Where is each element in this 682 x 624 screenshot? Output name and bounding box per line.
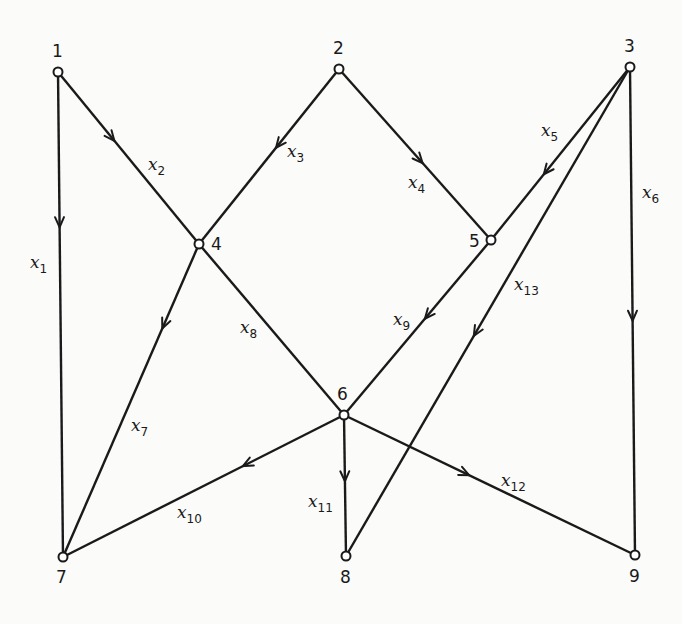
node-3 [626, 63, 635, 72]
edge-subscript: 10 [187, 512, 202, 526]
edge-label-x9: x9 [393, 309, 410, 333]
edge-x10 [63, 415, 344, 557]
edge-label-x10: x10 [177, 502, 202, 526]
edge-variable: x [408, 172, 418, 192]
edges-layer [58, 67, 635, 557]
edge-variable: x [393, 309, 403, 329]
edge-variable: x [308, 491, 318, 511]
edge-label-x8: x8 [240, 317, 257, 341]
edge-label-x3: x3 [287, 141, 304, 165]
edge-x1 [58, 72, 63, 557]
edge-subscript: 11 [318, 501, 333, 515]
node-label-6: 6 [337, 384, 348, 404]
edge-subscript: 9 [403, 319, 411, 333]
edge-subscript: 7 [141, 425, 149, 439]
edge-x11 [344, 415, 346, 556]
node-label-7: 7 [56, 567, 67, 587]
edge-x5 [491, 67, 630, 240]
edge-x8 [199, 244, 344, 415]
edge-label-x2: x2 [148, 154, 165, 178]
node-7 [59, 553, 68, 562]
node-label-5: 5 [469, 231, 480, 251]
edge-variable: x [177, 502, 187, 522]
node-1 [54, 68, 63, 77]
edge-variable: x [287, 141, 297, 161]
edge-x4 [339, 69, 491, 240]
node-label-1: 1 [52, 41, 63, 61]
node-label-9: 9 [629, 566, 640, 586]
edge-subscript: 12 [511, 480, 526, 494]
node-6 [340, 411, 349, 420]
node-9 [631, 551, 640, 560]
edge-subscript: 4 [418, 182, 426, 196]
edge-subscript: 5 [551, 130, 559, 144]
edge-label-x5: x5 [541, 120, 558, 144]
edge-label-x12: x12 [501, 470, 526, 494]
node-2 [335, 65, 344, 74]
edge-x6 [630, 67, 635, 555]
graph-svg: x1x2x3x4x5x6x7x8x9x10x11x12x13123456789 [0, 0, 682, 624]
edge-variable: x [642, 182, 652, 202]
edge-x9 [344, 240, 491, 415]
edge-x3 [199, 69, 339, 244]
edge-subscript: 3 [297, 151, 305, 165]
node-label-8: 8 [340, 567, 351, 587]
edge-subscript: 8 [250, 327, 258, 341]
edge-subscript: 2 [158, 164, 166, 178]
edge-subscript: 1 [40, 262, 48, 276]
edge-variable: x [514, 274, 524, 294]
node-5 [487, 236, 496, 245]
edge-label-x7: x7 [131, 415, 148, 439]
edge-variable: x [501, 470, 511, 490]
edge-variable: x [541, 120, 551, 140]
node-8 [342, 552, 351, 561]
node-label-4: 4 [211, 234, 222, 254]
edge-label-x11: x11 [308, 491, 333, 515]
node-label-2: 2 [333, 38, 344, 58]
directed-graph-diagram: x1x2x3x4x5x6x7x8x9x10x11x12x13123456789 [0, 0, 682, 624]
edge-label-x4: x4 [408, 172, 425, 196]
edge-x13 [346, 67, 630, 556]
node-4 [195, 240, 204, 249]
node-label-3: 3 [624, 36, 635, 56]
edge-label-x6: x6 [642, 182, 659, 206]
edge-variable: x [240, 317, 250, 337]
edge-variable: x [30, 252, 40, 272]
edge-variable: x [131, 415, 141, 435]
edge-x2 [58, 72, 199, 244]
edge-variable: x [148, 154, 158, 174]
edge-label-x1: x1 [30, 252, 47, 276]
edge-subscript: 6 [652, 192, 660, 206]
edge-label-x13: x13 [514, 274, 539, 298]
edge-subscript: 13 [524, 284, 539, 298]
